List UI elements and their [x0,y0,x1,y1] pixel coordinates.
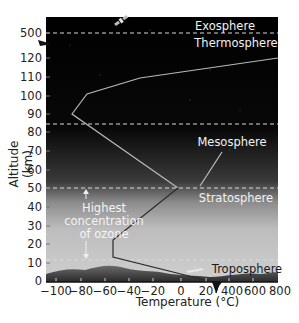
label-thermosphere: Thermosphere [194,36,277,50]
y-axis-title: Altitude (km) [7,129,35,199]
ozone-line-3: of ozone [64,228,144,241]
y-tick-10: 10 [2,256,42,270]
atmosphere-background [46,17,278,282]
label-exosphere: Exosphere [195,19,255,33]
y-tick-110: 110 [2,70,42,84]
y-tick-100: 100 [2,89,42,103]
label-stratosphere: Stratosphere [199,191,273,205]
y-tick-30: 30 [2,219,42,233]
y-tick-20: 20 [2,237,42,251]
y-tick-40: 40 [2,200,42,214]
y-tick-0: 0 [2,274,42,288]
ozone-annotation: Highest concentration of ozone [64,202,144,241]
x-axis-title: Temperature (°C) [0,295,299,309]
label-troposphere: Troposphere [212,262,282,276]
y-tick-90: 90 [2,107,42,121]
atmosphere-temperature-chart: 500 120 110 100 90 80 70 60 50 40 30 20 … [0,0,299,323]
y-tick-120: 120 [2,51,42,65]
y-tick-500: 500 [2,26,42,40]
label-mesosphere: Mesosphere [197,135,266,149]
